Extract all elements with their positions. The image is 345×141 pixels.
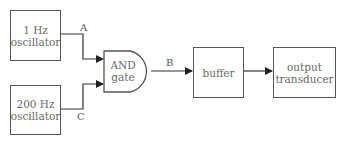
signal-label-c: C — [77, 111, 85, 122]
oscillator-1hz-freq: 1 Hz — [11, 24, 61, 36]
signal-label-b: B — [166, 57, 173, 68]
oscillator-200hz-block: 200 Hz oscillator — [10, 85, 61, 135]
wire-c — [60, 84, 103, 109]
and-gate-block: AND gate — [104, 59, 142, 83]
oscillator-1hz-label: oscillator — [11, 36, 61, 48]
output-transducer-block: output transducer — [273, 47, 336, 98]
transducer-label-1: output — [275, 61, 333, 73]
and-gate-label-2: gate — [104, 71, 142, 83]
and-gate-label-1: AND — [104, 59, 142, 71]
oscillator-200hz-freq: 200 Hz — [11, 98, 61, 110]
oscillator-1hz-block: 1 Hz oscillator — [10, 10, 61, 61]
oscillator-200hz-label: oscillator — [11, 110, 61, 122]
wire-a — [60, 34, 103, 59]
transducer-label-2: transducer — [275, 73, 333, 85]
buffer-block: buffer — [193, 47, 244, 98]
buffer-label: buffer — [202, 67, 234, 79]
signal-label-a: A — [80, 22, 87, 33]
